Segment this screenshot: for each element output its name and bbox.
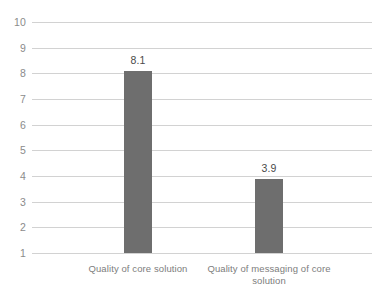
bar-value-label: 3.9 [239,163,299,174]
plot-area: 8.1 3.9 [32,22,372,253]
gridline-1 [32,253,372,254]
y-tick-label: 2 [4,222,26,233]
y-axis: 10 9 8 7 6 5 4 3 2 1 [0,0,26,302]
gridline-6 [32,125,372,126]
gridline-3 [32,202,372,203]
x-category-label: Quality of core solution [68,263,208,275]
gridline-10 [32,22,372,23]
bar-quality-of-messaging-of-core-solution[interactable] [255,179,283,253]
x-category-label: Quality of messaging of core solution [199,263,339,287]
x-axis: Quality of core solution Quality of mess… [32,263,372,302]
bar-quality-of-core-solution[interactable] [124,71,152,253]
gridline-8 [32,73,372,74]
y-tick-label: 3 [4,197,26,208]
y-tick-label: 5 [4,145,26,156]
y-tick-label: 10 [4,17,26,28]
gridline-4 [32,176,372,177]
y-tick-label: 1 [4,248,26,259]
bar-chart: 10 9 8 7 6 5 4 3 2 1 8.1 3.9 Quality of … [0,0,385,302]
y-tick-label: 4 [4,171,26,182]
y-tick-label: 8 [4,68,26,79]
gridline-9 [32,48,372,49]
gridline-5 [32,150,372,151]
y-tick-label: 6 [4,120,26,131]
y-tick-label: 9 [4,43,26,54]
bar-value-label: 8.1 [108,55,168,66]
gridline-2 [32,227,372,228]
gridline-7 [32,99,372,100]
y-tick-label: 7 [4,94,26,105]
